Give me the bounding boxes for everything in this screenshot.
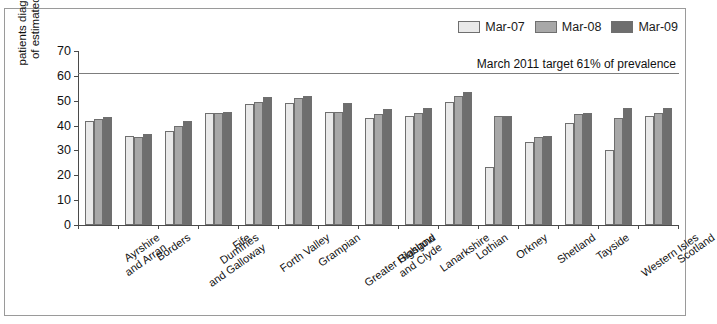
bar-mar-07[interactable] (125, 136, 134, 225)
bar-mar-09[interactable] (343, 103, 352, 225)
bar-group (278, 51, 318, 225)
bar-mar-09[interactable] (623, 108, 632, 225)
x-axis-tick-mark (158, 225, 159, 229)
bar-mar-07[interactable] (285, 103, 294, 225)
legend-swatch-icon (535, 21, 557, 33)
bar-group (198, 51, 238, 225)
bar-mar-07[interactable] (405, 116, 414, 225)
bar-group (158, 51, 198, 225)
bar-group (78, 51, 118, 225)
x-axis-labels: Ayrshire and ArranBordersDumfries and Ga… (78, 231, 679, 317)
legend-swatch-icon (458, 21, 480, 33)
bar-group (518, 51, 558, 225)
legend-swatch-icon (611, 21, 633, 33)
bar-mar-09[interactable] (383, 109, 392, 225)
bar-mar-09[interactable] (463, 92, 472, 225)
bar-mar-09[interactable] (223, 112, 232, 225)
x-axis-tick-mark (278, 225, 279, 229)
bar-group (358, 51, 398, 225)
bar-mar-07[interactable] (325, 112, 334, 225)
bar-group (478, 51, 518, 225)
chart-legend: Mar-07Mar-08Mar-09 (458, 20, 678, 34)
bar-mar-09[interactable] (503, 116, 512, 225)
bar-mar-07[interactable] (605, 150, 614, 225)
bar-mar-08[interactable] (614, 118, 623, 225)
y-axis-title-line: patients diagnosed as a % (16, 0, 30, 65)
bar-group (598, 51, 638, 225)
bar-mar-08[interactable] (254, 102, 263, 225)
bar-mar-08[interactable] (214, 113, 223, 225)
x-axis-tick-mark (638, 225, 639, 229)
x-axis-label: Orkney (513, 231, 549, 261)
legend-label: Mar-09 (638, 20, 678, 34)
legend-item-mar-07[interactable]: Mar-07 (458, 20, 525, 34)
bar-mar-07[interactable] (645, 116, 654, 225)
bar-mar-08[interactable] (174, 126, 183, 225)
x-axis-tick-mark (238, 225, 239, 229)
bar-mar-07[interactable] (565, 123, 574, 225)
bar-group (318, 51, 358, 225)
y-axis-title: patients diagnosed as a %of estimated pr… (6, 0, 52, 90)
x-axis-tick-mark (438, 225, 439, 229)
x-axis-tick-mark (558, 225, 559, 229)
x-axis-tick-mark (78, 225, 79, 229)
x-axis-tick-mark (198, 225, 199, 229)
x-axis-tick-mark (678, 225, 679, 229)
bar-mar-09[interactable] (183, 121, 192, 225)
x-axis-tick-mark (398, 225, 399, 229)
bar-mar-07[interactable] (445, 102, 454, 225)
legend-label: Mar-07 (485, 20, 525, 34)
x-axis-tick-mark (598, 225, 599, 229)
bar-mar-08[interactable] (294, 98, 303, 225)
legend-label: Mar-08 (562, 20, 602, 34)
bar-group (398, 51, 438, 225)
bar-mar-08[interactable] (654, 113, 663, 225)
bar-group (438, 51, 478, 225)
x-axis-label: Tayside (594, 231, 631, 262)
bar-mar-09[interactable] (583, 113, 592, 225)
bar-mar-09[interactable] (263, 97, 272, 225)
bar-mar-09[interactable] (543, 136, 552, 225)
bar-mar-08[interactable] (494, 116, 503, 225)
bar-mar-08[interactable] (374, 114, 383, 225)
bar-mar-07[interactable] (485, 167, 494, 225)
y-axis-title-line: of estimated prevalence (29, 0, 43, 59)
bar-mar-07[interactable] (525, 142, 534, 225)
bar-mar-08[interactable] (94, 119, 103, 225)
x-axis-line (78, 225, 679, 226)
bar-mar-08[interactable] (454, 96, 463, 225)
bar-mar-07[interactable] (365, 118, 374, 225)
bar-group (118, 51, 158, 225)
bar-mar-07[interactable] (205, 113, 214, 225)
legend-item-mar-09[interactable]: Mar-09 (611, 20, 678, 34)
bar-mar-08[interactable] (334, 112, 343, 225)
bar-mar-09[interactable] (303, 96, 312, 225)
legend-item-mar-08[interactable]: Mar-08 (535, 20, 602, 34)
bar-mar-09[interactable] (423, 108, 432, 225)
x-axis-label: Shetland (555, 231, 597, 266)
plot-area: 010203040506070March 2011 target 61% of … (78, 51, 678, 225)
x-axis-tick-mark (518, 225, 519, 229)
bar-mar-08[interactable] (534, 137, 543, 225)
bar-mar-09[interactable] (103, 117, 112, 225)
bar-group (238, 51, 278, 225)
bar-mar-07[interactable] (165, 131, 174, 225)
bar-mar-07[interactable] (85, 121, 94, 225)
x-axis-tick-mark (118, 225, 119, 229)
bar-group (638, 51, 678, 225)
bar-group (558, 51, 598, 225)
x-axis-tick-mark (478, 225, 479, 229)
bar-mar-08[interactable] (414, 113, 423, 225)
bar-mar-08[interactable] (574, 114, 583, 225)
bar-mar-07[interactable] (245, 104, 254, 225)
bar-mar-08[interactable] (134, 137, 143, 225)
x-axis-tick-mark (358, 225, 359, 229)
bar-mar-09[interactable] (663, 108, 672, 225)
bar-mar-09[interactable] (143, 134, 152, 225)
x-axis-tick-mark (318, 225, 319, 229)
